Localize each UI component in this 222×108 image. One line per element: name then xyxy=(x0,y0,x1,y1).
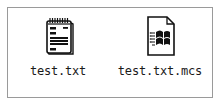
file-item-test-txt-mcs[interactable]: test.txt.mcs xyxy=(108,12,212,96)
file-name-label: test.txt xyxy=(30,64,86,78)
file-name-label: test.txt.mcs xyxy=(118,64,202,78)
notepad-text-file-icon xyxy=(38,14,78,58)
file-panel: test.txt test.txt.mcs xyxy=(7,7,213,98)
file-item-test-txt[interactable]: test.txt xyxy=(8,12,108,96)
windows-document-icon xyxy=(140,14,180,58)
